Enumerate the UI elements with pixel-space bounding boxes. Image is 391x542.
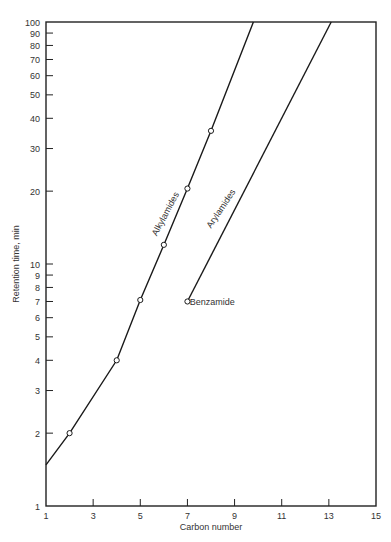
y-axis-ticks: 123456789102030405060708090100 <box>25 18 53 512</box>
y-axis-label: Retention time, min <box>11 225 21 303</box>
data-series <box>46 22 331 465</box>
y-tick-label: 70 <box>30 55 40 65</box>
y-tick-label: 5 <box>35 332 40 342</box>
y-tick-label: 6 <box>35 313 40 323</box>
y-tick-label: 30 <box>30 144 40 154</box>
annotation-benzamide: Benzamide <box>190 297 235 307</box>
y-tick-label: 40 <box>30 114 40 124</box>
x-tick-label: 3 <box>91 511 96 521</box>
y-tick-label: 3 <box>35 386 40 396</box>
x-tick-label: 11 <box>277 511 286 521</box>
data-point-marker <box>185 186 190 191</box>
y-tick-label: 9 <box>35 271 40 281</box>
x-axis-ticks: 13579111315 <box>43 499 381 521</box>
x-tick-label: 9 <box>232 511 237 521</box>
y-tick-label: 80 <box>30 41 40 51</box>
y-tick-label: 60 <box>30 71 40 81</box>
y-tick-label: 50 <box>30 90 40 100</box>
y-tick-label: 8 <box>35 283 40 293</box>
x-tick-label: 13 <box>324 511 334 521</box>
y-tick-label: 7 <box>35 297 40 307</box>
y-tick-label: 20 <box>30 187 40 197</box>
data-point-marker <box>161 242 166 247</box>
x-tick-label: 7 <box>185 511 190 521</box>
y-tick-label: 2 <box>35 429 40 439</box>
x-tick-label: 5 <box>138 511 143 521</box>
y-tick-label: 4 <box>35 356 40 366</box>
series-line-arylamides <box>187 22 331 302</box>
x-tick-label: 1 <box>43 511 48 521</box>
data-point-marker <box>138 297 143 302</box>
y-tick-label: 100 <box>25 18 40 28</box>
data-point-marker <box>208 128 213 133</box>
x-axis-label: Carbon number <box>180 522 243 532</box>
y-tick-label: 1 <box>35 502 40 512</box>
retention-time-chart: 123456789102030405060708090100 135791113… <box>0 0 391 542</box>
y-tick-label: 90 <box>30 29 40 39</box>
plot-frame <box>46 22 376 506</box>
series-line-alkylamides <box>46 22 253 465</box>
y-tick-label: 10 <box>30 260 40 270</box>
data-point-marker <box>114 358 119 363</box>
x-tick-label: 15 <box>371 511 381 521</box>
annotation-arylamides: Arylamides <box>204 187 237 230</box>
data-point-marker <box>67 431 72 436</box>
